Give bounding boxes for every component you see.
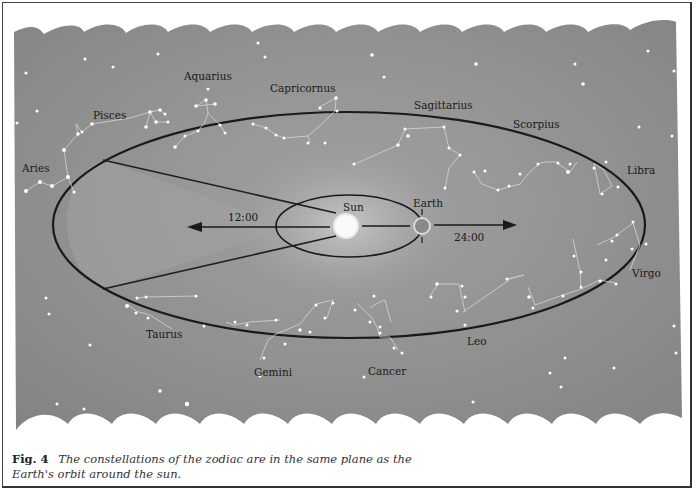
figure-number: Fig. 4 [12,452,49,466]
label-cancer: Cancer [368,365,407,377]
label-time-noon: 12:00 [228,211,258,223]
label-leo: Leo [467,335,487,347]
label-libra: Libra [627,164,655,176]
figure-caption: Fig. 4 The constellations of the zodiac … [12,452,452,482]
label-capricornus: Capricornus [270,82,336,94]
label-gemini: Gemini [254,366,293,378]
zodiac-diagram: Aries Pisces Aquarius Capricornus Sagitt… [0,0,696,492]
label-scorpius: Scorpius [513,118,560,130]
label-sagittarius: Sagittarius [414,99,473,111]
sun-icon [334,214,358,238]
label-pisces: Pisces [93,109,126,121]
label-aquarius: Aquarius [183,70,232,82]
earth-icon [414,218,430,234]
label-aries: Aries [21,162,50,174]
caption-text: The constellations of the zodiac are in … [12,452,412,481]
label-virgo: Virgo [631,267,661,279]
label-time-midnight: 24:00 [454,231,484,243]
label-taurus: Taurus [146,328,182,340]
label-earth: Earth [413,197,443,209]
label-sun: Sun [343,201,364,213]
